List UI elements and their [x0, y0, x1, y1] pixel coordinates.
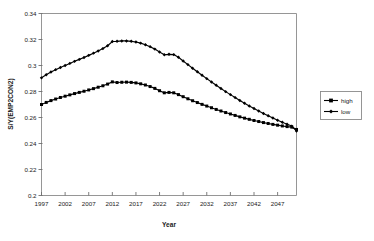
data-point-marker-square	[134, 81, 137, 84]
y-tick-label: 0.2	[28, 192, 37, 199]
x-tick-label: 2007	[82, 200, 96, 207]
data-point-marker-square	[130, 81, 133, 84]
y-tick-label: 0.24	[24, 140, 37, 147]
chart-figure: 0.20.220.240.260.280.30.320.34 199720022…	[0, 0, 374, 241]
y-tick-label: 0.3	[28, 62, 37, 69]
x-tick-label: 2027	[176, 200, 190, 207]
data-point-marker-square	[201, 103, 204, 106]
legend-label: high	[341, 97, 353, 104]
line-chart: 0.20.220.240.260.280.30.320.34 199720022…	[0, 0, 374, 241]
data-point-marker-square	[106, 83, 109, 86]
data-point-marker-square	[144, 84, 147, 87]
data-point-marker-square	[54, 98, 57, 101]
data-point-marker-square	[182, 95, 185, 98]
data-point-marker-square	[243, 117, 246, 120]
data-point-marker-square	[276, 124, 279, 127]
data-point-marker-square	[163, 91, 166, 94]
data-point-marker-square	[168, 91, 171, 94]
data-point-marker-square	[111, 80, 114, 83]
data-point-marker-square	[68, 93, 71, 96]
data-point-marker-square	[120, 81, 123, 84]
data-point-marker-square	[215, 108, 218, 111]
data-point-marker-square	[97, 86, 100, 89]
data-point-marker-square	[238, 115, 241, 118]
data-point-marker-square	[219, 110, 222, 113]
data-point-marker-square	[281, 124, 284, 127]
chart-legend: highlow	[321, 92, 362, 120]
data-point-marker-square	[64, 95, 67, 98]
data-point-marker-square	[262, 121, 265, 124]
data-point-marker-square	[248, 118, 251, 121]
data-point-marker-square	[177, 93, 180, 96]
data-point-marker-square	[205, 105, 208, 108]
y-axis-title: S/Y(EMP2CON2)	[7, 78, 15, 129]
data-point-marker-square	[40, 103, 43, 106]
data-point-marker-square	[153, 87, 156, 90]
data-point-marker-square	[267, 122, 270, 125]
data-point-marker-square	[49, 99, 52, 102]
x-axis-title: Year	[162, 221, 176, 228]
data-point-marker-square	[234, 114, 237, 117]
data-point-marker-square	[59, 96, 62, 99]
data-point-marker-square	[149, 85, 152, 88]
data-point-marker-square	[78, 91, 81, 94]
x-tick-label: 2002	[58, 200, 72, 207]
data-point-marker-square	[186, 97, 189, 100]
data-point-marker-square	[172, 91, 175, 94]
data-point-marker-square	[191, 99, 194, 102]
legend-border	[321, 92, 362, 120]
y-tick-label: 0.32	[24, 36, 37, 43]
data-point-marker-square	[87, 88, 90, 91]
data-point-marker-square	[73, 92, 76, 95]
x-tick-label: 2022	[153, 200, 167, 207]
legend-label: low	[341, 108, 351, 115]
x-tick-label: 2017	[129, 200, 143, 207]
data-point-marker-square	[257, 120, 260, 123]
data-point-marker-square	[45, 101, 48, 104]
data-point-marker-square	[224, 111, 227, 114]
data-point-marker-square	[116, 81, 119, 84]
x-tick-label: 2012	[105, 200, 119, 207]
data-point-marker-square	[158, 89, 161, 92]
data-point-marker-square	[253, 119, 256, 122]
x-tick-label: 2032	[200, 200, 214, 207]
data-point-marker-square	[196, 101, 199, 104]
y-tick-label: 0.28	[24, 88, 37, 95]
y-tick-label: 0.34	[24, 10, 37, 17]
x-tick-label: 2037	[224, 200, 238, 207]
x-tick-label: 1997	[35, 200, 49, 207]
data-point-marker-square	[139, 82, 142, 85]
y-tick-label: 0.26	[24, 114, 37, 121]
data-point-marker-square	[329, 99, 333, 103]
x-tick-label: 2047	[271, 200, 285, 207]
data-point-marker-square	[125, 81, 128, 84]
y-tick-label: 0.22	[24, 166, 37, 173]
data-point-marker-square	[101, 84, 104, 87]
x-tick-label: 2042	[247, 200, 261, 207]
data-point-marker-square	[92, 87, 95, 90]
data-point-marker-square	[271, 123, 274, 126]
data-point-marker-square	[83, 90, 86, 93]
data-point-marker-square	[210, 106, 213, 109]
data-point-marker-square	[229, 112, 232, 115]
